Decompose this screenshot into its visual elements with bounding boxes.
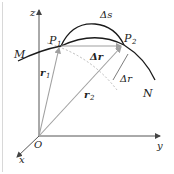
axes (17, 10, 160, 157)
label-P1-sub: 1 (57, 40, 61, 48)
label-P2: P (123, 32, 132, 45)
dashed-arc (47, 43, 117, 90)
origin-label: O (34, 139, 42, 150)
label-P2-sub: 2 (131, 38, 137, 46)
x-label: x (19, 154, 25, 165)
label-r1-sub: 1 (46, 72, 50, 80)
vector-r1 (39, 48, 59, 136)
label-delta-s: Δs (99, 9, 112, 20)
y-label: y (156, 140, 163, 151)
label-P1: P (48, 34, 57, 47)
label-M: M (13, 48, 26, 61)
vector-r2 (39, 47, 121, 136)
diagram-canvas: z y x O M N P 1 P 2 Δs Δr Δr r 1 r 2 (0, 0, 174, 174)
kinematics-diagram: z y x O M N P 1 P 2 Δs Δr Δr r 1 r 2 (0, 0, 174, 174)
label-r2-sub: 2 (89, 94, 95, 102)
label-delta-r-vector: Δr (89, 51, 104, 62)
label-delta-r-magnitude: Δr (119, 73, 133, 84)
z-label: z (29, 7, 36, 18)
label-N: N (142, 87, 153, 100)
